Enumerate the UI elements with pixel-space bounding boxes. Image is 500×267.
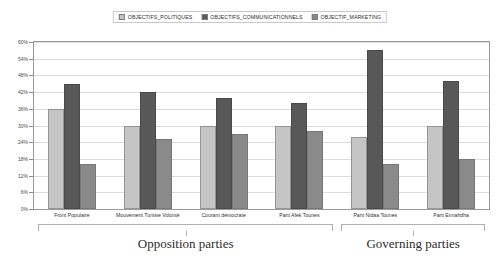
bar-2[interactable] [156, 139, 172, 209]
x-axis-category-label: Parti Afek Tounes [279, 212, 319, 218]
bar-0[interactable] [200, 126, 216, 210]
legend-label: OBJECTIFS_COMMUNICATIONNELS [210, 14, 302, 20]
legend-label: OBJECTIFS_POLITIQUES [128, 14, 193, 20]
y-axis-tick-label: 54% [18, 56, 28, 62]
legend-swatch-icon [312, 14, 318, 20]
y-axis-tick-label: 48% [18, 72, 28, 78]
bar-2[interactable] [307, 131, 323, 209]
bar-1[interactable] [367, 50, 383, 209]
bar-2[interactable] [383, 164, 399, 209]
bar-group [186, 42, 262, 209]
group-label: Governing parties [366, 236, 460, 252]
bar-2[interactable] [459, 159, 475, 209]
bar-chart: OBJECTIFS_POLITIQUESOBJECTIFS_COMMUNICAT… [0, 0, 500, 267]
bars-layer [34, 42, 489, 209]
legend-entry-0[interactable]: OBJECTIFS_POLITIQUES [119, 14, 193, 20]
x-axis-category-label: Parti Ennahdha [433, 212, 469, 218]
bar-group [337, 42, 413, 209]
bar-0[interactable] [275, 126, 291, 210]
x-axis-category-labels: Front PopulaireMouvement Tunisie Volonté… [34, 212, 489, 224]
legend-swatch-icon [119, 14, 125, 20]
group-labels: Opposition partiesGoverning parties [34, 236, 489, 260]
group-bracket [38, 224, 333, 231]
y-axis-tick-label: 24% [18, 139, 28, 145]
y-axis-tick-label: 6% [21, 189, 28, 195]
group-label: Opposition parties [138, 236, 234, 252]
y-axis-tick-label: 30% [18, 123, 28, 129]
y-axis-tick-label: 42% [18, 89, 28, 95]
bar-1[interactable] [291, 103, 307, 209]
y-axis-tick-label: 0% [21, 206, 28, 212]
x-axis-category-label: Parti Nidaa Tounes [353, 212, 397, 218]
legend-entry-1[interactable]: OBJECTIFS_COMMUNICATIONNELS [201, 14, 302, 20]
bar-0[interactable] [351, 137, 367, 209]
y-axis-tick-label: 18% [18, 156, 28, 162]
y-axis-tick-label: 60% [18, 39, 28, 45]
bar-0[interactable] [48, 109, 64, 209]
bar-2[interactable] [80, 164, 96, 209]
y-axis-labels: 0%6%12%18%24%30%36%42%48%54%60% [0, 41, 31, 210]
x-axis-category-label: Mouvement Tunisie Volonté [116, 212, 180, 218]
bar-group [413, 42, 489, 209]
x-axis-category-label: Front Populaire [54, 212, 89, 218]
x-axis-category-label: Courant démocrate [201, 212, 245, 218]
y-axis-tick-label: 36% [18, 106, 28, 112]
legend-entry-2[interactable]: OBJECTIF_MARKETING [312, 14, 382, 20]
bar-0[interactable] [427, 126, 443, 210]
bar-2[interactable] [232, 134, 248, 209]
bar-0[interactable] [124, 126, 140, 210]
bar-1[interactable] [443, 81, 459, 209]
bar-group [110, 42, 186, 209]
bar-group [34, 42, 110, 209]
bar-1[interactable] [64, 84, 80, 209]
bar-1[interactable] [140, 92, 156, 209]
group-bracket [341, 224, 485, 231]
bar-1[interactable] [216, 98, 232, 209]
legend-label: OBJECTIF_MARKETING [321, 14, 382, 20]
bar-group [262, 42, 338, 209]
chart-legend: OBJECTIFS_POLITIQUESOBJECTIFS_COMMUNICAT… [113, 11, 387, 23]
y-axis-tick-label: 12% [18, 173, 28, 179]
legend-swatch-icon [201, 14, 207, 20]
